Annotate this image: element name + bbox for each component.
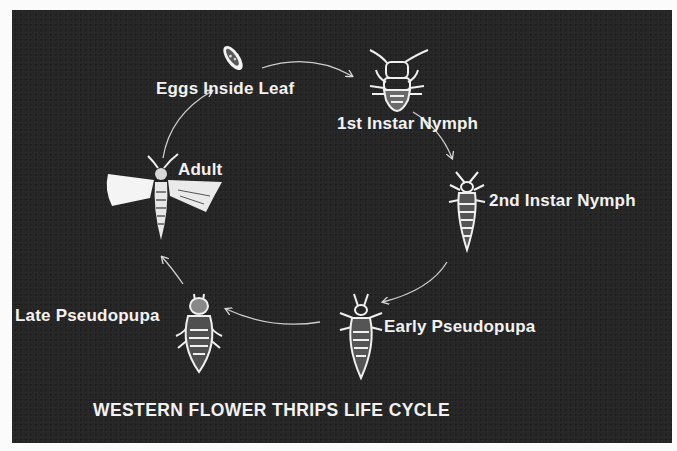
arrow-late-pupa-to-adult [162, 257, 183, 284]
stage-label-adult: Adult [178, 161, 222, 178]
diagram-title: WESTERN FLOWER THRIPS LIFE CYCLE [93, 402, 450, 420]
egg-icon [220, 43, 247, 73]
arrow-early-pupa-to-late-pupa [226, 309, 320, 324]
stage-label-first-instar-nymph: 1st Instar Nymph [337, 115, 478, 132]
stage-label-second-instar-nymph: 2nd Instar Nymph [489, 192, 636, 209]
stage-label-early-pseudopupa: Early Pseudopupa [384, 318, 536, 335]
stage-label-late-pseudopupa: Late Pseudopupa [15, 307, 160, 324]
arrow-eggs-to-nymph1 [262, 62, 352, 76]
arrow-adult-to-eggs [163, 91, 212, 158]
second-instar-nymph-icon [449, 172, 485, 250]
stage-label-eggs: Eggs Inside Leaf [156, 80, 294, 97]
early-pseudopupa-icon [340, 294, 382, 378]
first-instar-nymph-icon [370, 50, 428, 111]
late-pseudopupa-icon [176, 294, 222, 372]
life-cycle-illustration [0, 0, 677, 451]
arrow-nymph2-to-early-pupa [383, 262, 447, 302]
